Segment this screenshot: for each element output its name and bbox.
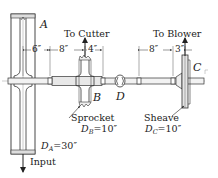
label-db: DB=10″	[81, 124, 117, 136]
sheave-c	[176, 55, 190, 108]
shaft-assembly-diagram	[0, 0, 218, 178]
dim-8in-left: 8″	[59, 45, 68, 54]
label-b: B	[93, 92, 101, 103]
dim-4in: 4″	[88, 45, 97, 54]
label-d: D	[116, 91, 125, 102]
label-sheave: Sheave	[144, 113, 179, 123]
label-da: DA=30″	[41, 141, 77, 153]
dim-6in: 6″	[32, 45, 41, 54]
label-input: Input	[30, 157, 56, 167]
extension-lines	[23, 46, 185, 76]
label-dc: DC=10″	[145, 124, 181, 136]
label-a: A	[40, 19, 48, 30]
coupling-d	[115, 75, 125, 87]
label-sprocket: Sprocket	[71, 113, 114, 123]
label-to-blower: To Blower	[153, 29, 201, 39]
label-c: C	[193, 62, 201, 73]
dim-3in: 3″	[175, 45, 184, 54]
dim-8in-right: 8″	[149, 45, 158, 54]
label-to-cutter: To Cutter	[64, 29, 110, 39]
